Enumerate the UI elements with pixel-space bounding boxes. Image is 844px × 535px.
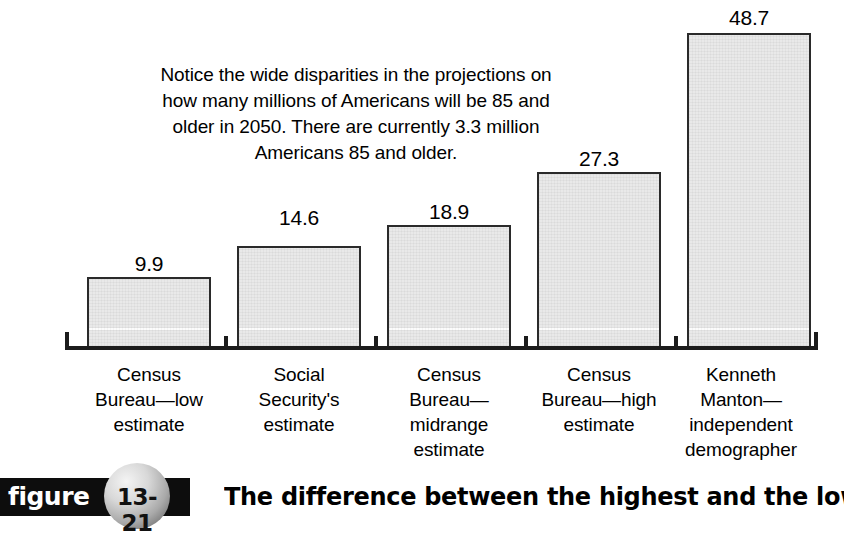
x-axis-label-census-bureau-midrange: Census Bureau— midrange estimate (367, 362, 531, 462)
bar-scan-artifact (89, 328, 209, 330)
axis-tick (374, 336, 378, 346)
bar-census-bureau-midrange[interactable] (387, 225, 511, 346)
annotation-line-3: older in 2050. There are currently 3.3 m… (126, 114, 586, 140)
x-axis-label-census-bureau-low: Census Bureau—low estimate (67, 362, 231, 437)
chart-annotation: Notice the wide disparities in the proje… (126, 62, 586, 166)
label-line: Bureau—high (517, 387, 681, 412)
annotation-line-4: Americans 85 and older. (126, 140, 586, 166)
bar-chart: Notice the wide disparities in the proje… (0, 0, 823, 350)
label-line: Bureau— (367, 387, 531, 412)
figure-word: figure (8, 482, 89, 511)
x-axis-label-social-security: Social Security's estimate (217, 362, 381, 437)
label-line: Kenneth (659, 362, 823, 387)
annotation-line-1: Notice the wide disparities in the proje… (126, 62, 586, 88)
axis-tick-end (814, 332, 818, 346)
bar-value-label: 9.9 (87, 253, 211, 274)
axis-tick-start (65, 332, 69, 346)
bar-social-security[interactable] (237, 246, 361, 346)
bar-scan-artifact (389, 328, 509, 330)
label-line: estimate (217, 412, 381, 437)
label-line: independent (659, 412, 823, 437)
bar-kenneth-manton[interactable] (687, 33, 811, 346)
x-axis-label-census-bureau-high: Census Bureau—high estimate (517, 362, 681, 437)
figure-number: 13-21 (104, 484, 170, 535)
label-line: estimate (517, 412, 681, 437)
label-line: Census (367, 362, 531, 387)
bar-value-label: 27.3 (537, 148, 661, 169)
label-line: Census (67, 362, 231, 387)
x-axis-line (65, 346, 818, 350)
axis-tick (674, 336, 678, 346)
axis-tick (524, 336, 528, 346)
label-line: midrange (367, 412, 531, 437)
bar-census-bureau-high[interactable] (537, 172, 661, 346)
bar-value-label: 14.6 (237, 207, 361, 228)
label-line: Manton— (659, 387, 823, 412)
annotation-line-2: how many millions of Americans will be 8… (126, 88, 586, 114)
bar-value-label: 18.9 (387, 201, 511, 222)
bar-census-bureau-low[interactable] (87, 277, 211, 346)
label-line: Bureau—low (67, 387, 231, 412)
x-axis-label-kenneth-manton: Kenneth Manton— independent demographer (659, 362, 823, 462)
label-line: demographer (659, 437, 823, 462)
bar-scan-artifact (689, 328, 809, 330)
axis-tick (224, 336, 228, 346)
label-line: estimate (67, 412, 231, 437)
label-line: Census (517, 362, 681, 387)
label-line: Security's (217, 387, 381, 412)
label-line: Social (217, 362, 381, 387)
bar-scan-artifact (239, 328, 359, 330)
figure-caption: figure 13-21 The difference between the … (0, 476, 823, 516)
bar-value-label: 48.7 (687, 7, 811, 28)
figure-caption-text: The difference between the highest and t… (224, 481, 844, 513)
bar-scan-artifact (539, 328, 659, 330)
label-line: estimate (367, 437, 531, 462)
